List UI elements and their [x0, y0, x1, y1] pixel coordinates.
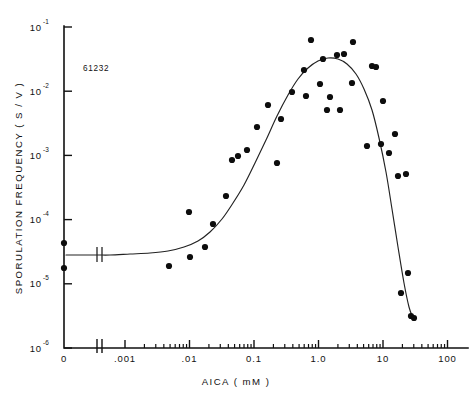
data-point [229, 157, 235, 163]
y-axis-title: SPORULATION FREQUENCY ( S / V ) [13, 82, 24, 294]
sporulation-frequency-chart: 10-110-210-310-410-510-6 0.001.010.11.01… [0, 0, 473, 405]
data-point [235, 153, 241, 159]
y-tick-exponent-3: -4 [43, 210, 49, 217]
data-point [378, 141, 384, 147]
x-axis-ticks [125, 340, 448, 348]
x-tick-label-4: 1.0 [311, 353, 327, 364]
data-point [61, 265, 67, 271]
data-point [392, 131, 398, 137]
data-point [244, 147, 250, 153]
data-point [186, 209, 192, 215]
y-tick-label-5: 10 [30, 343, 42, 354]
y-tick-exponent-2: -3 [43, 146, 49, 153]
data-point [327, 94, 333, 100]
data-point [403, 171, 409, 177]
data-point [364, 143, 370, 149]
y-axis-tick-labels: 10-110-210-310-410-510-6 [30, 18, 50, 354]
data-point [274, 160, 280, 166]
data-point [349, 80, 355, 86]
data-point [320, 56, 326, 62]
data-point [61, 240, 67, 246]
data-point [223, 193, 229, 199]
data-point [373, 64, 379, 70]
y-tick-exponent-4: -5 [43, 274, 49, 281]
y-tick-exponent-0: -1 [43, 18, 49, 25]
data-point [386, 150, 392, 156]
figure-code-label: 61232 [83, 64, 109, 73]
y-tick-label-4: 10 [30, 278, 42, 289]
data-point [308, 37, 314, 43]
y-axis-ticks [64, 27, 72, 348]
fitted-curve [66, 58, 413, 318]
data-point [187, 254, 193, 260]
data-point [254, 124, 260, 130]
data-points [61, 37, 417, 321]
x-tick-label-2: .01 [182, 353, 198, 364]
data-point [337, 107, 343, 113]
data-point [324, 107, 330, 113]
data-point [166, 263, 172, 269]
y-tick-exponent-5: -6 [43, 339, 49, 346]
y-tick-label-1: 10 [30, 86, 42, 97]
data-point [395, 173, 401, 179]
x-axis-title: AICA ( mM ) [202, 376, 271, 387]
data-point [405, 270, 411, 276]
y-tick-label-0: 10 [30, 22, 42, 33]
x-tick-label-6: 100 [438, 353, 457, 364]
data-point [289, 89, 295, 95]
data-point [380, 98, 386, 104]
figure-container: 10-110-210-310-410-510-6 0.001.010.11.01… [0, 0, 473, 405]
data-point [202, 244, 208, 250]
x-tick-label-5: 10 [377, 353, 389, 364]
data-point [411, 315, 417, 321]
y-tick-label-2: 10 [30, 150, 42, 161]
y-tick-label-3: 10 [30, 214, 42, 225]
data-point [350, 39, 356, 45]
x-tick-label-0: 0 [61, 353, 67, 364]
data-point [278, 116, 284, 122]
data-point [265, 102, 271, 108]
data-point [398, 290, 404, 296]
data-point [210, 221, 216, 227]
x-axis-tick-labels: 0.001.010.11.010100 [61, 353, 457, 364]
data-point [317, 81, 323, 87]
x-tick-label-3: 0.1 [246, 353, 262, 364]
x-tick-label-1: .001 [114, 353, 136, 364]
data-point [301, 67, 307, 73]
data-point [303, 93, 309, 99]
x-axis-break-marker [97, 247, 102, 353]
data-point [341, 51, 347, 57]
y-tick-exponent-1: -2 [43, 82, 49, 89]
data-point [334, 52, 340, 58]
